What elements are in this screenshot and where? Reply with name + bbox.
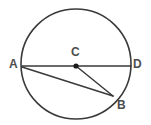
geometry-canvas (0, 0, 151, 125)
vertex-label-b: B (117, 99, 126, 111)
vertex-label-c: C (71, 46, 80, 58)
circle-geometry-figure: A C D B (0, 0, 151, 125)
segment-c-b-radius (76, 66, 113, 96)
center-point-dot (73, 63, 78, 68)
vertex-label-a: A (9, 58, 18, 70)
vertex-label-d: D (133, 58, 142, 70)
segment-a-b-chord (22, 67, 113, 96)
